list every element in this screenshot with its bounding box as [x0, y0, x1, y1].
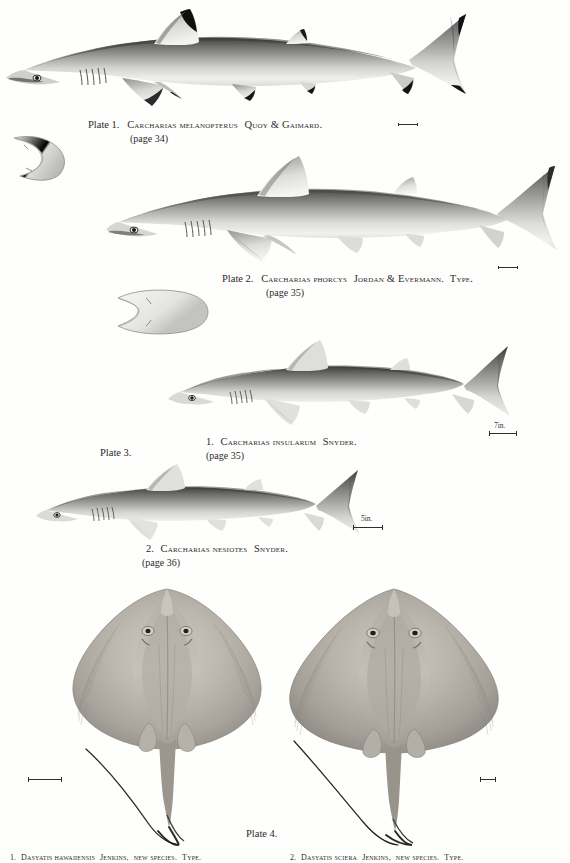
- plate-3-fig-1-number: 1.: [206, 436, 214, 447]
- figure-plate-3-shark-1: [168, 336, 518, 432]
- plate-2-authority: Jordan & Evermann.: [354, 273, 444, 284]
- plate-1-authority: Quoy & Gaimard.: [244, 119, 322, 130]
- plate-4-fig-2-authority: Jenkins,: [362, 853, 391, 862]
- scale-bar-plate-1: [398, 124, 418, 125]
- plate-4-fig-1-type-note: Type.: [182, 853, 201, 862]
- plate-2-species: Carcharias phorcys: [261, 273, 347, 284]
- plate-4-fig-1-number: 1.: [10, 853, 16, 862]
- scale-label-plate-3-fig-1: 7in.: [494, 421, 505, 430]
- scale-bar-plate-4-left: [28, 779, 62, 780]
- plate-4-fig-2-number: 2.: [290, 853, 296, 862]
- scale-bar-plate-2: [498, 267, 518, 268]
- plate-page: Plate 1. Carcharias melanopterus Quoy & …: [0, 0, 570, 863]
- plate-4-fig-2-species: Dasyatis sciera: [301, 853, 357, 862]
- plate-2-type-note: Type.: [450, 273, 473, 284]
- plate-4-fig-2-type-note: Type.: [444, 853, 463, 862]
- plate-1-page-ref: (page 34): [130, 132, 322, 146]
- plate-3-fig-2-authority: Snyder.: [254, 543, 288, 554]
- plate-4-label: Plate 4.: [246, 828, 278, 839]
- figure-plate-1-shark: [4, 2, 474, 120]
- caption-plate-1: Plate 1. Carcharias melanopterus Quoy & …: [88, 118, 322, 146]
- plate-3-fig-1-authority: Snyder.: [323, 436, 357, 447]
- figure-plate-3-shark-2: [36, 462, 368, 548]
- scale-bar-plate-3-fig-2: [353, 527, 383, 528]
- figure-plate-2-shark: [105, 148, 565, 268]
- plate-4-fig-2-status: new species.: [396, 853, 439, 862]
- plate-1-label: Plate 1.: [88, 119, 120, 130]
- caption-plate-2: Plate 2. Carcharias phorcys Jordan & Eve…: [222, 272, 473, 300]
- scale-label-plate-3-fig-2: 5in.: [361, 514, 372, 523]
- plate-4-fig-1-species: Dasyatis hawaiiensis: [21, 853, 95, 862]
- scale-bar-plate-4-right: [480, 779, 496, 780]
- plate-3-label: Plate 3.: [100, 447, 132, 458]
- plate-4-fig-1-authority: Jenkins,: [100, 853, 129, 862]
- plate-3-fig-1-species: Carcharias insularum: [221, 436, 317, 447]
- caption-plate-4-fig-2: 2. Dasyatis sciera Jenkins, new species.…: [290, 853, 463, 862]
- plate-3-fig-2-page-ref: (page 36): [142, 556, 288, 570]
- scale-bar-plate-3-fig-1: [489, 433, 517, 434]
- caption-plate-4-fig-1: 1. Dasyatis hawaiiensis Jenkins, new spe…: [10, 853, 201, 862]
- figure-plate-4-ray-1: [60, 583, 275, 845]
- figure-plate-2-ventral-head-inset: [112, 288, 212, 336]
- plate-2-label: Plate 2.: [222, 273, 254, 284]
- plate-2-page-ref: (page 35): [266, 286, 473, 300]
- caption-plate-3-fig-1: 1. Carcharias insularum Snyder. (page 35…: [206, 435, 357, 463]
- figure-plate-1-ventral-head-inset: [6, 132, 86, 184]
- plate-3-fig-2-number: 2.: [146, 543, 154, 554]
- plate-3-fig-1-page-ref: (page 35): [206, 449, 357, 463]
- plate-3-fig-2-species: Carcharias nesiotes: [161, 543, 248, 554]
- figure-plate-4-ray-2: [272, 583, 517, 845]
- plate-4-fig-1-status: new species.: [134, 853, 177, 862]
- caption-plate-3-fig-2: 2. Carcharias nesiotes Snyder. (page 36): [146, 542, 288, 570]
- plate-1-species: Carcharias melanopterus: [127, 119, 238, 130]
